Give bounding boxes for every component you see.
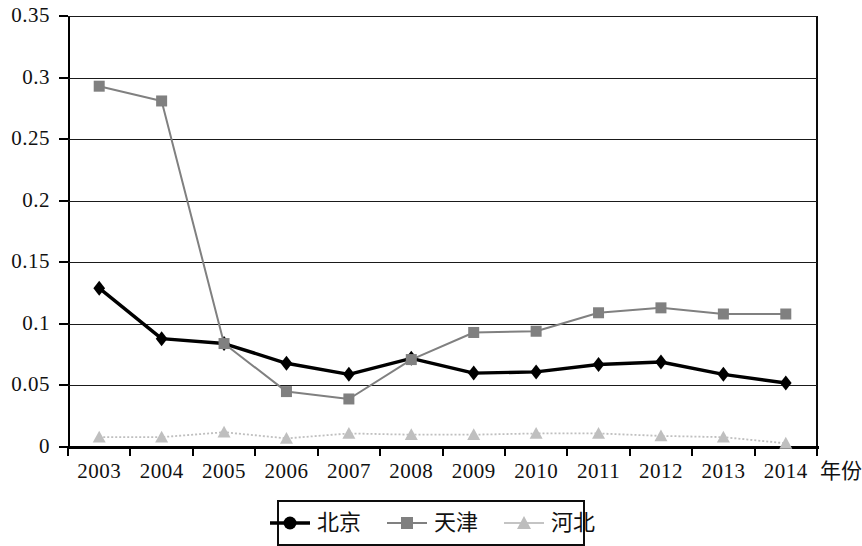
- x-axis-tick: [192, 447, 194, 456]
- x-axis-line: [68, 446, 819, 449]
- data-point: [467, 428, 480, 440]
- x-axis-tick: [317, 447, 319, 456]
- y-axis-line: [68, 16, 70, 447]
- legend-label-hebei: 河北: [551, 511, 595, 535]
- data-point: [655, 355, 667, 370]
- data-point: [468, 366, 480, 381]
- data-point: [218, 336, 230, 351]
- data-point: [718, 367, 730, 382]
- data-point: [655, 302, 666, 313]
- gridline: [68, 16, 817, 17]
- data-point: [531, 326, 542, 337]
- x-axis-tick: [754, 447, 756, 456]
- gridline: [68, 385, 817, 386]
- gridline: [68, 324, 817, 325]
- y-axis-tick: [59, 138, 68, 140]
- y-axis-tick-label: 0.3: [0, 67, 50, 88]
- legend-marker-hebei: [502, 513, 546, 533]
- series-北京: [93, 281, 791, 391]
- data-point: [343, 367, 355, 382]
- series-line: [99, 86, 786, 399]
- y-axis-tick-label: 0.2: [0, 190, 50, 211]
- x-axis-tick: [504, 447, 506, 456]
- x-axis-tick: [566, 447, 568, 456]
- series-line: [99, 288, 786, 383]
- x-axis-tick: [816, 447, 818, 456]
- gridline: [68, 78, 817, 79]
- data-point: [343, 393, 354, 404]
- gridline: [68, 262, 817, 263]
- data-point: [219, 338, 230, 349]
- y-axis-tick-label: 0.15: [0, 251, 50, 272]
- x-axis-tick: [442, 447, 444, 456]
- x-axis-tick-label: 2014: [749, 459, 823, 483]
- data-point: [281, 356, 293, 371]
- data-point: [406, 354, 417, 365]
- y-axis-tick: [59, 384, 68, 386]
- data-point: [593, 307, 604, 318]
- x-axis-tick: [379, 447, 381, 456]
- x-axis-tick: [129, 447, 131, 456]
- y-axis-tick: [59, 77, 68, 79]
- data-point: [718, 309, 729, 320]
- data-point: [342, 427, 355, 439]
- legend-marker-beijing: [268, 513, 312, 533]
- data-point: [155, 431, 168, 443]
- x-axis-tick: [629, 447, 631, 456]
- data-point: [405, 428, 418, 440]
- data-point: [93, 281, 105, 296]
- data-point: [93, 431, 106, 443]
- data-point: [780, 375, 792, 390]
- data-point: [468, 327, 479, 338]
- legend-item-beijing: 北京: [268, 511, 361, 535]
- x-axis-title: 年份: [820, 459, 862, 483]
- gridline: [68, 139, 817, 140]
- series-line: [99, 432, 786, 443]
- data-point: [530, 427, 543, 439]
- data-point: [717, 431, 730, 443]
- data-point: [156, 95, 167, 106]
- data-point: [281, 386, 292, 397]
- y-axis-tick: [59, 323, 68, 325]
- legend-marker-tianjin: [385, 513, 429, 533]
- y-axis-tick-label: 0: [0, 436, 50, 457]
- plot-right-border: [816, 16, 818, 447]
- legend-label-beijing: 北京: [317, 511, 361, 535]
- y-axis-tick: [59, 15, 68, 17]
- data-point: [780, 309, 791, 320]
- gridline: [68, 201, 817, 202]
- y-axis-tick: [59, 261, 68, 263]
- data-point: [405, 351, 417, 366]
- legend-item-hebei: 河北: [502, 511, 595, 535]
- data-point: [156, 331, 168, 346]
- y-axis-tick-label: 0.1: [0, 313, 50, 334]
- data-point: [94, 81, 105, 92]
- data-point: [592, 427, 605, 439]
- legend: 北京 天津 河北: [277, 500, 585, 546]
- x-axis-tick: [67, 447, 69, 456]
- data-point: [218, 426, 231, 438]
- y-axis-tick-label: 0.35: [0, 5, 50, 26]
- legend-item-tianjin: 天津: [385, 511, 478, 535]
- data-point: [593, 357, 605, 372]
- y-axis-tick-label: 0.25: [0, 128, 50, 149]
- legend-label-tianjin: 天津: [434, 511, 478, 535]
- x-axis-tick: [691, 447, 693, 456]
- data-point: [280, 432, 293, 444]
- y-axis-tick-label: 0.05: [0, 374, 50, 395]
- x-axis-tick: [254, 447, 256, 456]
- data-point: [654, 429, 667, 441]
- y-axis-tick: [59, 200, 68, 202]
- data-point: [530, 364, 542, 379]
- series-天津: [94, 81, 792, 405]
